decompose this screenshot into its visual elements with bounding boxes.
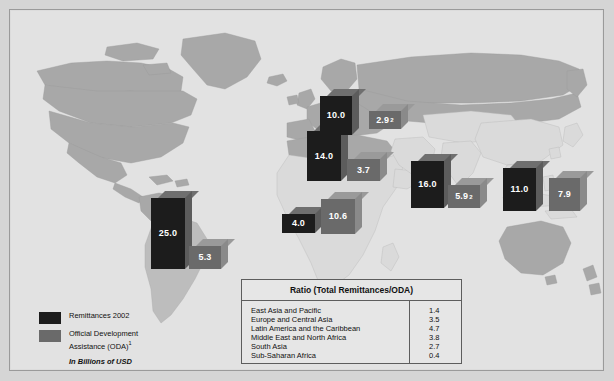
ratio-row-value: 1.4 bbox=[408, 306, 461, 315]
ratio-row-label: Middle East and North Africa bbox=[242, 333, 408, 342]
world-map-plate: 11.07.914.03.710.02.9225.05.34.010.616.0… bbox=[11, 11, 602, 369]
marker-top-face bbox=[510, 161, 550, 168]
legend-item-oda: Official Development Assistance (ODA)1 bbox=[39, 329, 189, 351]
ratio-row-label: South Asia bbox=[242, 342, 408, 351]
legend-label-remittances: Remittances 2002 bbox=[69, 311, 129, 321]
map-marker-remittances: 25.0 bbox=[151, 191, 192, 269]
marker-front-face: 16.0 bbox=[411, 161, 444, 208]
marker-value: 2.9 bbox=[376, 116, 389, 125]
ratio-table-row: South Asia2.7 bbox=[242, 342, 461, 351]
ratio-table-title: Ratio (Total Remittances/ODA) bbox=[242, 280, 461, 301]
marker-side-face bbox=[352, 89, 359, 135]
ratio-row-label: Sub-Saharan Africa bbox=[242, 351, 408, 360]
marker-top-face bbox=[328, 192, 369, 199]
legend-label-oda: Official Development Assistance (ODA)1 bbox=[69, 329, 138, 351]
ratio-table-body: East Asia and Pacific1.4Europe and Centr… bbox=[242, 301, 461, 364]
ratio-table-row: Latin America and the Caribbean4.7 bbox=[242, 324, 461, 333]
ratio-table-divider bbox=[409, 301, 410, 364]
marker-top-face bbox=[418, 154, 458, 161]
legend-swatch-oda bbox=[39, 330, 61, 342]
ratio-row-value: 0.4 bbox=[408, 351, 461, 360]
map-marker-oda: 2.92 bbox=[369, 104, 408, 129]
marker-side-face bbox=[536, 161, 543, 211]
map-marker-oda: 3.7 bbox=[347, 152, 387, 181]
map-marker-remittances: 11.0 bbox=[503, 161, 543, 211]
marker-front-face: 2.92 bbox=[369, 111, 401, 129]
marker-front-face: 4.0 bbox=[282, 214, 315, 233]
ratio-table-row: Middle East and North Africa3.8 bbox=[242, 333, 461, 342]
marker-front-face: 25.0 bbox=[151, 198, 185, 269]
marker-front-face: 11.0 bbox=[503, 168, 536, 211]
ratio-row-value: 3.5 bbox=[408, 315, 461, 324]
map-marker-oda: 5.3 bbox=[189, 239, 228, 269]
marker-front-face: 3.7 bbox=[347, 159, 380, 181]
legend-swatch-remittances bbox=[39, 312, 61, 324]
ratio-row-label: East Asia and Pacific bbox=[242, 306, 408, 315]
ratio-row-value: 2.7 bbox=[408, 342, 461, 351]
ratio-table-row: East Asia and Pacific1.4 bbox=[242, 306, 461, 315]
legend-units-note: In Billions of USD bbox=[69, 357, 189, 366]
ratio-row-value: 4.7 bbox=[408, 324, 461, 333]
marker-top-face bbox=[158, 191, 199, 198]
map-marker-remittances: 16.0 bbox=[411, 154, 451, 208]
marker-front-face: 5.3 bbox=[189, 246, 221, 269]
marker-value: 25.0 bbox=[159, 229, 177, 238]
legend-oda-footnote-marker: 1 bbox=[129, 340, 132, 346]
marker-value: 11.0 bbox=[511, 185, 529, 194]
ratio-table-row: Sub-Saharan Africa0.4 bbox=[242, 351, 461, 360]
legend-label-oda-line1: Official Development bbox=[69, 329, 138, 338]
marker-value: 10.0 bbox=[327, 111, 345, 120]
marker-value: 5.9 bbox=[455, 192, 468, 201]
ratio-table: Ratio (Total Remittances/ODA) East Asia … bbox=[241, 279, 462, 364]
ratio-row-value: 3.8 bbox=[408, 333, 461, 342]
ratio-row-label: Europe and Central Asia bbox=[242, 315, 408, 324]
screenshot-root: 11.07.914.03.710.02.9225.05.34.010.616.0… bbox=[0, 0, 614, 381]
marker-front-face: 5.92 bbox=[448, 185, 480, 208]
marker-value: 5.3 bbox=[198, 253, 211, 262]
marker-side-face bbox=[580, 171, 587, 211]
marker-footnote-marker: 2 bbox=[469, 194, 473, 200]
map-marker-oda: 10.6 bbox=[321, 192, 362, 234]
marker-value: 14.0 bbox=[315, 152, 333, 161]
marker-value: 7.9 bbox=[558, 190, 571, 199]
marker-footnote-marker: 2 bbox=[390, 117, 394, 123]
marker-side-face bbox=[380, 152, 387, 181]
marker-value: 10.6 bbox=[329, 212, 347, 221]
map-marker-oda: 7.9 bbox=[549, 171, 587, 211]
marker-side-face bbox=[221, 239, 228, 269]
legend-item-remittances: Remittances 2002 bbox=[39, 311, 189, 324]
marker-front-face: 14.0 bbox=[307, 131, 341, 181]
marker-top-face bbox=[354, 152, 394, 159]
map-marker-oda: 5.92 bbox=[448, 178, 487, 208]
marker-front-face: 10.6 bbox=[321, 199, 355, 234]
marker-value: 4.0 bbox=[292, 219, 305, 228]
marker-side-face bbox=[480, 178, 487, 208]
marker-side-face bbox=[355, 192, 362, 234]
map-legend: Remittances 2002 Official Development As… bbox=[39, 311, 189, 366]
ratio-table-row: Europe and Central Asia3.5 bbox=[242, 315, 461, 324]
ratio-row-label: Latin America and the Caribbean bbox=[242, 324, 408, 333]
marker-value: 3.7 bbox=[357, 166, 370, 175]
legend-label-oda-line2: Assistance (ODA) bbox=[69, 341, 129, 350]
map-marker-remittances: 10.0 bbox=[320, 89, 359, 135]
marker-front-face: 10.0 bbox=[320, 96, 352, 135]
marker-value: 16.0 bbox=[418, 180, 436, 189]
marker-front-face: 7.9 bbox=[549, 178, 580, 211]
map-marker-remittances: 4.0 bbox=[282, 207, 322, 233]
